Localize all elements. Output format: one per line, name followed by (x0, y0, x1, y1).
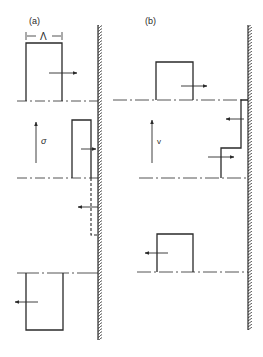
wall-b (248, 25, 252, 330)
panel-a-label: (a) (29, 16, 40, 26)
v-label: v (157, 137, 161, 146)
reflected-pulse-dashed (91, 178, 98, 235)
panel-b: (b) v (113, 16, 252, 330)
reflection-diagram: (a) Λ σ (0, 0, 263, 357)
wall-a (98, 25, 102, 340)
velocity-sigma: σ (36, 122, 47, 163)
velocity-v: v (152, 120, 161, 163)
pulse-b-bottom (137, 234, 248, 272)
dimension-lambda: Λ (26, 31, 62, 42)
panel-b-label: (b) (145, 16, 156, 26)
lambda-label: Λ (40, 31, 47, 42)
step-profile (221, 100, 248, 178)
pulse-b-middle (139, 100, 248, 178)
pulse-a-middle (17, 120, 98, 235)
panel-a: (a) Λ σ (15, 16, 102, 340)
sigma-label: σ (41, 136, 47, 146)
pulse-a-bottom (15, 273, 98, 330)
pulse-b-top (113, 62, 243, 100)
pulse-a-top (17, 43, 98, 101)
